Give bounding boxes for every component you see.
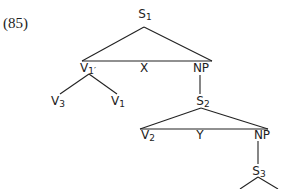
tree-node-s3: S3 — [252, 165, 265, 179]
tree-edges — [0, 0, 302, 189]
tree-edge — [60, 74, 89, 94]
node-label: V — [51, 94, 59, 108]
tree-node-v1prime: V1′ — [80, 62, 96, 76]
node-label: S — [252, 164, 260, 178]
node-subscript: 1′ — [88, 66, 96, 76]
node-subscript: 3 — [260, 169, 266, 179]
node-subscript: 1 — [146, 12, 152, 22]
node-subscript: 1 — [119, 99, 125, 109]
tree-edge — [82, 27, 144, 61]
node-label: S — [138, 7, 146, 21]
tree-node-v3: V3 — [51, 95, 65, 109]
tree-node-np2: NP — [254, 129, 270, 141]
node-label: V — [141, 128, 149, 142]
node-subscript: 2 — [204, 99, 210, 109]
tree-node-v2: V2 — [141, 129, 155, 143]
node-label: V — [111, 94, 119, 108]
node-label: S — [196, 94, 204, 108]
tree-node-y: Y — [196, 129, 203, 141]
node-label: Y — [196, 128, 203, 142]
tree-edge — [144, 27, 212, 61]
tree-edge — [89, 74, 117, 94]
node-label: V — [80, 61, 88, 75]
node-subscript: 2 — [149, 133, 155, 143]
tree-node-s1: S1 — [138, 8, 151, 22]
tree-edge — [140, 108, 201, 129]
node-label: X — [140, 61, 148, 75]
tree-node-np1: NP — [193, 62, 209, 74]
tree-edge — [201, 108, 268, 129]
tree-node-s2: S2 — [196, 95, 209, 109]
node-label: NP — [193, 61, 209, 75]
tree-node-x: X — [140, 62, 148, 74]
node-subscript: 3 — [59, 99, 65, 109]
node-label: NP — [254, 128, 270, 142]
tree-node-v1: V1 — [111, 95, 125, 109]
